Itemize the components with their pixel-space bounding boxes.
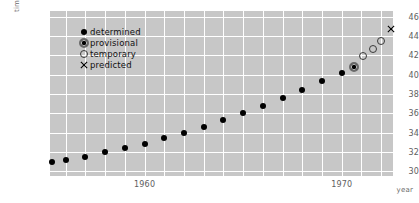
legend-item-label: provisional [90, 38, 138, 48]
data-point-determined [142, 141, 148, 147]
legend-item-label: temporary [90, 49, 136, 59]
legend: determinedprovisionaltemporarypredicted [78, 26, 141, 70]
data-point-determined [339, 70, 345, 76]
data-point-determined [49, 159, 55, 165]
legend-item-temporary: temporary [78, 48, 141, 59]
data-point-determined [63, 157, 69, 163]
gridline-horizontal [50, 133, 393, 134]
x-tick-label: 1970 [331, 180, 352, 189]
legend-item-label: determined [90, 27, 141, 37]
legend-item-provisional: provisional [78, 37, 141, 48]
gridline-horizontal [50, 113, 393, 114]
legend-marker-icon [78, 37, 90, 48]
data-point-provisional [349, 62, 359, 72]
data-point-determined [181, 130, 187, 136]
x-tick-label: 1960 [134, 180, 155, 189]
data-point-determined [280, 95, 286, 101]
data-point-determined [319, 78, 325, 84]
legend-item-predicted: predicted [78, 59, 141, 70]
data-point-determined [161, 135, 167, 141]
legend-marker-icon [78, 59, 90, 70]
x-axis-label: year [397, 186, 413, 194]
gridline-horizontal [50, 171, 393, 172]
data-point-determined [260, 103, 266, 109]
y-axis-label: time (sec) [13, 0, 21, 12]
data-point-temporary [369, 45, 377, 53]
data-point-determined [220, 117, 226, 123]
chart-figure: time (sec) year 303234363840424446 19601… [0, 0, 419, 203]
data-point-determined [299, 87, 305, 93]
legend-item-label: predicted [90, 60, 132, 70]
data-point-determined [122, 145, 128, 151]
data-point-determined [82, 154, 88, 160]
data-point-determined [240, 110, 246, 116]
legend-marker-icon [78, 48, 90, 59]
gridline-horizontal [50, 17, 393, 18]
legend-item-determined: determined [78, 26, 141, 37]
data-point-determined [201, 124, 207, 130]
data-point-temporary [377, 37, 385, 45]
gridline-horizontal [50, 94, 393, 95]
data-point-predicted [387, 25, 396, 34]
legend-marker-icon [78, 26, 90, 37]
data-point-temporary [359, 52, 367, 60]
data-point-determined [102, 149, 108, 155]
